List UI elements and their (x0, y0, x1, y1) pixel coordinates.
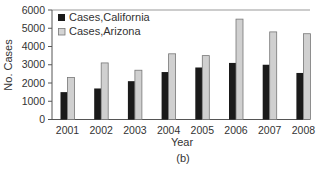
legend-swatch-california (58, 14, 65, 21)
legend-label-arizona: Cases,Arizona (69, 25, 141, 37)
x-tick-label: 2005 (191, 124, 215, 136)
bar-arizona-2008 (303, 34, 310, 120)
legend-swatch-arizona (59, 29, 66, 36)
y-axis-ticks: 0100020003000400050006000 (22, 4, 52, 126)
bar-arizona-2005 (202, 56, 209, 120)
x-tick-label: 2008 (292, 124, 316, 136)
x-axis-ticks: 20012002200320042005200620072008 (56, 124, 315, 136)
y-tick-label: 0 (39, 113, 45, 125)
x-tick-label: 2003 (123, 124, 147, 136)
bar-california-2007 (263, 65, 270, 120)
y-tick-label: 3000 (22, 58, 46, 70)
y-tick-label: 2000 (22, 77, 46, 89)
figure-caption: (b) (176, 152, 189, 164)
bar-california-2004 (162, 72, 169, 119)
y-tick-label: 4000 (22, 40, 46, 52)
bar-arizona-2007 (270, 32, 277, 120)
y-axis-title: No. Cases (2, 39, 14, 91)
y-tick-label: 6000 (22, 4, 46, 16)
y-tick-label: 1000 (22, 95, 46, 107)
legend: Cases,California Cases,Arizona (58, 11, 151, 37)
bar-california-2006 (229, 63, 236, 120)
x-axis-title: Year (171, 136, 194, 148)
bar-california-2002 (94, 88, 101, 119)
bar-arizona-2001 (68, 78, 75, 120)
bar-arizona-2003 (135, 70, 142, 119)
x-tick-label: 2002 (90, 124, 114, 136)
x-tick-label: 2007 (258, 124, 282, 136)
x-tick-label: 2001 (56, 124, 80, 136)
bar-arizona-2004 (169, 54, 176, 120)
bar-california-2005 (195, 67, 202, 119)
bar-chart: 0100020003000400050006000 20012002200320… (0, 0, 318, 171)
bar-arizona-2006 (236, 19, 243, 119)
bar-california-2008 (296, 73, 303, 120)
bar-california-2001 (61, 92, 68, 119)
legend-label-california: Cases,California (69, 11, 151, 23)
y-tick-label: 5000 (22, 22, 46, 34)
bar-california-2003 (128, 81, 135, 119)
legend-item-arizona: Cases,Arizona (59, 25, 142, 37)
bar-arizona-2002 (101, 63, 108, 120)
x-tick-label: 2004 (157, 124, 181, 136)
x-tick-label: 2006 (224, 124, 248, 136)
legend-item-california: Cases,California (58, 11, 151, 23)
